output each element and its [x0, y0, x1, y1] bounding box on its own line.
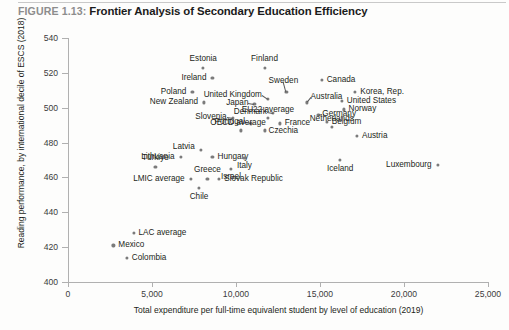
data-point [339, 158, 342, 161]
data-point-label: OECD average [210, 119, 266, 127]
data-point-label: Mexico [118, 241, 144, 249]
data-point [263, 129, 266, 132]
figure-number-label: FIGURE 1.13: [18, 5, 86, 17]
data-point [229, 167, 232, 170]
data-point-label: Iceland [327, 165, 353, 173]
x-axis-tick [68, 282, 69, 287]
x-axis-tick [320, 282, 321, 287]
data-point [125, 256, 128, 259]
data-point [199, 148, 202, 151]
x-axis-tick-label: 20,000 [391, 289, 417, 299]
label-leader-line [262, 95, 268, 100]
x-axis-tick-label: 0 [66, 289, 71, 299]
x-axis-tick-label: 10,000 [223, 289, 249, 299]
x-axis-tick [488, 282, 489, 287]
data-point [278, 122, 281, 125]
data-point [211, 155, 214, 158]
x-axis-tick-label: 25,000 [475, 289, 501, 299]
data-point [202, 101, 205, 104]
x-axis-tick [236, 282, 237, 287]
x-axis-tick-label: 15,000 [307, 289, 333, 299]
x-axis-tick [152, 282, 153, 287]
data-point-label: Australia [311, 93, 343, 101]
data-point-label: Slovak Republic [224, 175, 283, 183]
data-point-label: Chile [190, 193, 209, 201]
data-point-label: New Zealand [150, 98, 198, 106]
x-axis-line [68, 282, 489, 283]
figure-title-text: Frontier Analysis of Secondary Education… [89, 5, 367, 17]
y-axis-tick-label: 540 [28, 33, 58, 43]
data-point [179, 155, 182, 158]
data-point-label: Austria [362, 131, 387, 139]
data-point-label: LMIC average [133, 175, 184, 183]
y-axis-tick-label: 500 [28, 103, 58, 113]
data-point-label: Finland [251, 55, 278, 63]
y-axis-tick-label: 480 [28, 138, 58, 148]
data-point-label: EU22 average [242, 106, 294, 114]
data-point-label: Latvia [173, 142, 195, 150]
data-point [154, 165, 157, 168]
y-axis-tick-label: 400 [28, 277, 58, 287]
data-point-label: Colombia [132, 253, 167, 261]
x-axis-tick-label: 5,000 [141, 289, 163, 299]
data-point-label: Poland [161, 88, 187, 96]
data-point [355, 134, 358, 137]
y-axis-tick-label: 460 [28, 172, 58, 182]
data-point-label: Estonia [190, 55, 217, 63]
data-point [189, 178, 192, 181]
data-point-label: LAC average [139, 229, 187, 237]
x-axis-title: Total expenditure per full-time equivale… [68, 305, 489, 315]
figure-container: FIGURE 1.13: Frontier Analysis of Second… [0, 0, 509, 330]
data-point [436, 164, 439, 167]
data-point [239, 129, 242, 132]
data-point [330, 125, 333, 128]
data-point-label: Italy [237, 162, 252, 170]
data-point [320, 78, 323, 81]
data-point [206, 178, 209, 181]
y-axis-tick-label: 440 [28, 207, 58, 217]
data-point-label: Canada [327, 76, 356, 84]
data-point [191, 90, 194, 93]
data-point [112, 244, 115, 247]
y-axis-tick-label: 420 [28, 242, 58, 252]
data-point-label: Türkiye [142, 154, 169, 162]
data-point [263, 66, 266, 69]
data-point-label: Ireland [181, 74, 206, 82]
data-point [211, 76, 214, 79]
data-point-label: Luxembourg [386, 161, 432, 169]
data-point [202, 66, 205, 69]
data-point [197, 186, 200, 189]
page-top-rule [18, 2, 506, 3]
data-point-label: Netherlands [310, 115, 354, 123]
y-axis-tick-label: 520 [28, 68, 58, 78]
data-point-label: Czechia [269, 127, 299, 135]
figure-title: FIGURE 1.13: Frontier Analysis of Second… [18, 5, 367, 17]
data-point [132, 232, 135, 235]
x-axis-tick [404, 282, 405, 287]
scatter-plot-area: EstoniaFinlandIrelandCanadaKorea, Rep.Po… [68, 38, 488, 282]
data-point-label: Greece [194, 166, 221, 174]
data-point [354, 90, 357, 93]
data-point [266, 117, 269, 120]
y-axis-title: Reading performance, by international de… [16, 8, 26, 258]
